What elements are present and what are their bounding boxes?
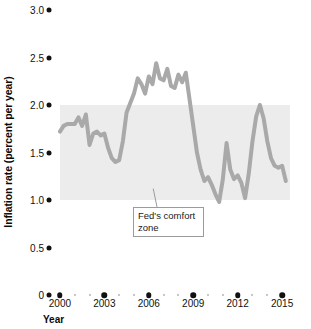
x-tick-dot-minor: [251, 294, 253, 296]
y-tick-label: 3.0: [0, 5, 44, 16]
fed-comfort-zone-callout: Fed's comfort zone: [133, 207, 204, 237]
y-tick-dot: [47, 150, 52, 155]
x-tick-dot-minor: [163, 294, 165, 296]
x-tick-dot-minor: [266, 294, 268, 296]
inflation-rate-chart: Inflation rate (percent per year) Year 3…: [0, 0, 311, 329]
y-tick-label: 0.5: [0, 242, 44, 253]
y-tick-dot: [47, 245, 52, 250]
x-tick-dot-minor: [118, 294, 120, 296]
x-tick-dot-minor: [74, 294, 76, 296]
y-tick-label: 1.5: [0, 147, 44, 158]
callout-leader-stroke: [153, 189, 157, 207]
x-tick-dot-minor: [207, 294, 209, 296]
callout-leader-line: [0, 0, 311, 329]
plot-area: [0, 0, 311, 329]
x-tick-dot: [146, 292, 152, 298]
x-tick-label: 2009: [182, 298, 204, 309]
x-tick-label: 2012: [227, 298, 249, 309]
y-tick-label: 1.0: [0, 195, 44, 206]
x-tick-dot: [279, 292, 285, 298]
x-tick-label: 2006: [138, 298, 160, 309]
x-tick-label: 2000: [49, 298, 71, 309]
y-tick-dot: [47, 8, 52, 13]
y-tick-label: 0: [0, 290, 44, 301]
x-tick-dot: [235, 292, 241, 298]
x-tick-label: 2015: [271, 298, 293, 309]
x-tick-dot-minor: [222, 294, 224, 296]
callout-line-2: zone: [138, 222, 200, 234]
callout-line-1: Fed's comfort: [138, 210, 200, 222]
y-tick-dot: [47, 198, 52, 203]
y-tick-dot: [47, 103, 52, 108]
x-tick-dot: [190, 292, 196, 298]
x-tick-dot-minor: [177, 294, 179, 296]
x-tick-dot-minor: [133, 294, 135, 296]
y-tick-dot: [47, 293, 52, 298]
x-tick-dot-minor: [89, 294, 91, 296]
x-tick-dot: [102, 292, 108, 298]
y-tick-label: 2.0: [0, 100, 44, 111]
y-tick-label: 2.5: [0, 52, 44, 63]
y-tick-dot: [47, 55, 52, 60]
x-tick-dot: [57, 292, 63, 298]
x-tick-label: 2003: [93, 298, 115, 309]
